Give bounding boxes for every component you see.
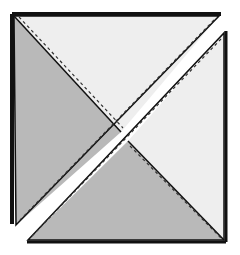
diagram-svg (0, 0, 240, 255)
quilt-diagram (0, 0, 240, 255)
